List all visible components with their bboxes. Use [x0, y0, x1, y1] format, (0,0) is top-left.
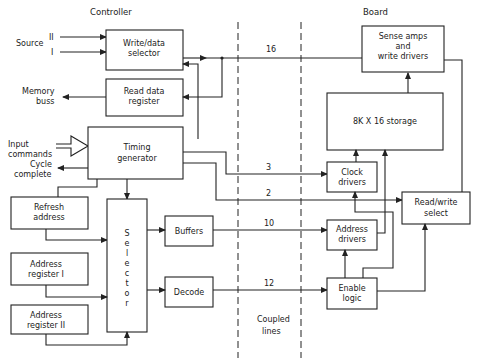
timing-generator-label-2: generator: [117, 154, 157, 163]
selector-block: S e l e c t o r: [107, 199, 147, 332]
read-data-register-label-1: Read data: [124, 87, 165, 96]
enable-bus-width: 12: [264, 279, 274, 288]
refresh-address-label-1: Refresh: [34, 203, 64, 212]
address-drivers-label-2: drivers: [338, 235, 366, 244]
sense-amps-block: Sense amps and write drivers: [362, 26, 444, 72]
coupled-lines-label-1: Coupled: [257, 315, 290, 324]
storage-block: 8K X 16 storage: [327, 93, 443, 150]
timing-to-write-selector-wire: [183, 64, 198, 139]
selector-letter: l: [126, 249, 128, 258]
timing-generator-block: Timing generator: [88, 127, 183, 179]
sense-amps-label-3: write drivers: [378, 52, 428, 61]
controller-header: Controller: [90, 7, 132, 17]
memory-buss-label-2: buss: [36, 97, 54, 106]
address-register-ii-label-2: register II: [27, 321, 65, 330]
address-drivers-to-storage-wire: [377, 150, 385, 233]
selector-letter: c: [125, 269, 129, 278]
coupled-lines-label-2: lines: [262, 327, 281, 336]
buffers-label: Buffers: [175, 227, 203, 236]
selector-letter: t: [125, 279, 128, 288]
refresh-to-selector-wire: [46, 229, 107, 240]
decode-block: Decode: [165, 277, 213, 307]
selector-letter: o: [125, 289, 130, 298]
source-ii-label: II: [49, 33, 54, 42]
write-data-selector-label-1: Write/data: [123, 39, 165, 48]
data-bus-width: 16: [266, 45, 276, 54]
address-register-ii-block: Address register II: [11, 305, 88, 334]
memory-system-block-diagram: Controller Board Coupled lines Source II…: [0, 0, 479, 358]
timing-to-refresh-wire: [58, 179, 97, 197]
storage-label: 8K X 16 storage: [353, 117, 417, 126]
timing-generator-label-1: Timing: [122, 143, 150, 152]
enable-logic-label-2: logic: [343, 294, 362, 303]
enable-to-rw-select-wire: [377, 224, 425, 291]
enable-logic-label-1: Enable: [338, 284, 365, 293]
address-drivers-label-1: Address: [336, 225, 368, 234]
clock-drivers-label-2: drivers: [338, 178, 366, 187]
sense-amps-label-1: Sense amps: [379, 32, 428, 41]
read-data-register-label-2: register: [129, 97, 161, 106]
cycle-complete-label-1: Cycle: [30, 160, 52, 169]
sense-amps-label-2: and: [395, 42, 410, 51]
sense-amps-to-rw-select-wire: [444, 60, 462, 194]
address-drivers-block: Address drivers: [327, 220, 377, 250]
address-register-i-label-2: register I: [28, 270, 64, 279]
cycle-complete-label-2: complete: [14, 170, 51, 179]
input-commands-label-1: Input: [8, 140, 29, 149]
clock-drivers-block: Clock drivers: [327, 162, 377, 192]
enable-logic-block: Enable logic: [327, 278, 377, 309]
write-data-selector-label-2: selector: [128, 49, 161, 58]
address-register-i-block: Address register I: [11, 253, 88, 285]
source-i-label: I: [51, 48, 53, 57]
read-data-register-block: Read data register: [106, 79, 183, 116]
selector-letter: S: [124, 229, 129, 238]
read-write-select-block: Read/write select: [402, 192, 470, 224]
address-register-i-label-1: Address: [30, 260, 62, 269]
input-commands-hollow-arrow: [56, 136, 88, 156]
memory-buss-label-1: Memory: [22, 87, 55, 96]
selector-letter: e: [125, 239, 130, 248]
refresh-address-block: Refresh address: [11, 197, 88, 229]
address-register-i-to-selector-wire: [46, 285, 107, 297]
read-write-bus-width: 2: [266, 189, 271, 198]
refresh-address-label-2: address: [33, 213, 64, 222]
selector-letter: e: [125, 259, 130, 268]
buffers-block: Buffers: [165, 216, 213, 246]
clock-bus-width: 3: [266, 163, 271, 172]
input-commands-label-2: commands: [8, 150, 52, 159]
read-write-select-label-2: select: [424, 209, 448, 218]
write-data-selector-block: Write/data selector: [106, 30, 183, 70]
decode-label: Decode: [174, 288, 204, 297]
board-header: Board: [363, 7, 388, 17]
address-register-ii-label-1: Address: [30, 311, 62, 320]
source-label: Source: [16, 39, 44, 48]
address-bus-width: 10: [264, 219, 274, 228]
read-write-select-label-1: Read/write: [415, 198, 458, 207]
clock-drivers-label-1: Clock: [341, 168, 363, 177]
